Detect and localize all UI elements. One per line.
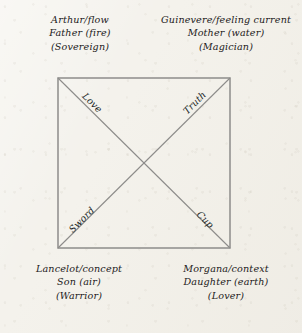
diagonal-label-sword: Sword [66, 204, 96, 234]
square-with-diagonals-figure: Love Truth Sword Cup [0, 0, 302, 333]
diagonal-label-truth: Truth [181, 89, 208, 116]
diagonal-label-cup: Cup [195, 209, 217, 231]
